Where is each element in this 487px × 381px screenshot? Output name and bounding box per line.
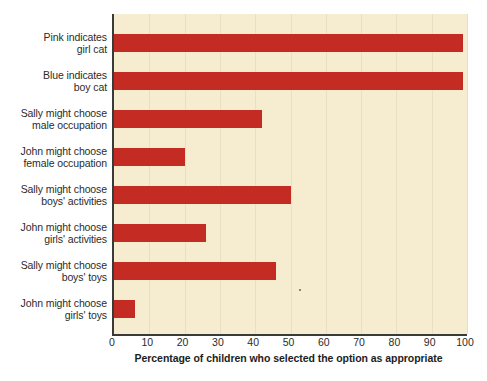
- gridline: [467, 14, 468, 334]
- category-label-line: John might choose: [21, 145, 107, 157]
- x-tick-label: 10: [141, 336, 153, 348]
- gridline: [149, 14, 150, 334]
- category-label-line: John might choose: [21, 297, 107, 309]
- gridline: [432, 14, 433, 334]
- category-label: Pink indicatesgirl cat: [0, 31, 107, 55]
- x-tick-label: 90: [424, 336, 436, 348]
- category-label: Sally might chooseboys' toys: [0, 259, 107, 283]
- horizontal-bar-chart: Pink indicatesgirl catBlue indicatesboy …: [0, 0, 487, 381]
- gridline: [291, 14, 292, 334]
- category-label-line: male occupation: [0, 119, 107, 131]
- plot-area: [112, 14, 467, 336]
- x-tick-label: 20: [177, 336, 189, 348]
- bar: [114, 110, 262, 128]
- category-label-line: female occupation: [0, 157, 107, 169]
- category-label-line: Sally might choose: [21, 259, 107, 271]
- category-label: Sally might chooseboys' activities: [0, 183, 107, 207]
- bar: [114, 262, 276, 280]
- category-label-line: girls' toys: [0, 309, 107, 321]
- category-label-line: boys' activities: [0, 195, 107, 207]
- category-axis: Pink indicatesgirl catBlue indicatesboy …: [0, 14, 107, 334]
- x-tick-label: 30: [212, 336, 224, 348]
- gridline: [326, 14, 327, 334]
- category-label-line: boys' toys: [0, 271, 107, 283]
- category-label: Blue indicatesboy cat: [0, 69, 107, 93]
- print-speck: [299, 289, 301, 291]
- category-label-line: Blue indicates: [43, 69, 107, 81]
- gridline: [185, 14, 186, 334]
- category-label-line: John might choose: [21, 221, 107, 233]
- bar: [114, 34, 463, 52]
- gridline: [396, 14, 397, 334]
- category-label: John might choosegirls' activities: [0, 221, 107, 245]
- bar: [114, 72, 463, 90]
- category-label: John might choosefemale occupation: [0, 145, 107, 169]
- category-label: Sally might choosemale occupation: [0, 107, 107, 131]
- x-tick-label: 60: [318, 336, 330, 348]
- category-label: John might choosegirls' toys: [0, 297, 107, 321]
- bar: [114, 224, 206, 242]
- category-label-line: Sally might choose: [21, 107, 107, 119]
- bar: [114, 186, 291, 204]
- gridline: [361, 14, 362, 334]
- x-axis-title: Percentage of children who selected the …: [112, 352, 465, 364]
- x-tick-label: 80: [389, 336, 401, 348]
- x-tick-label: 0: [109, 336, 115, 348]
- category-label-line: boy cat: [0, 81, 107, 93]
- x-axis-ticks: 0102030405060708090100: [112, 336, 465, 352]
- gridline: [255, 14, 256, 334]
- x-tick-label: 70: [353, 336, 365, 348]
- gridline: [220, 14, 221, 334]
- x-tick-label: 100: [456, 336, 474, 348]
- category-label-line: girl cat: [0, 43, 107, 55]
- bar: [114, 300, 135, 318]
- category-label-line: Sally might choose: [21, 183, 107, 195]
- x-tick-label: 40: [247, 336, 259, 348]
- category-label-line: Pink indicates: [44, 31, 107, 43]
- category-label-line: girls' activities: [0, 233, 107, 245]
- bar: [114, 148, 185, 166]
- gridlines: [114, 14, 467, 334]
- x-tick-label: 50: [283, 336, 295, 348]
